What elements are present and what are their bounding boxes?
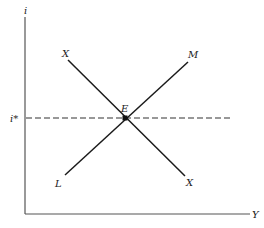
y-axis-label: i xyxy=(24,5,27,16)
curve-lm-end-label: M xyxy=(187,49,199,60)
reference-line-label: i* xyxy=(10,113,18,124)
is-lm-style-diagram: i Y i* L M X X E xyxy=(0,0,264,228)
curve-xx-end-label: X xyxy=(185,177,194,188)
x-axis-label: Y xyxy=(252,209,260,220)
curve-lm-start-label: L xyxy=(54,178,62,189)
curve-xx-start-label: X xyxy=(61,48,70,59)
equilibrium-label: E xyxy=(120,103,129,114)
equilibrium-marker xyxy=(123,116,128,121)
